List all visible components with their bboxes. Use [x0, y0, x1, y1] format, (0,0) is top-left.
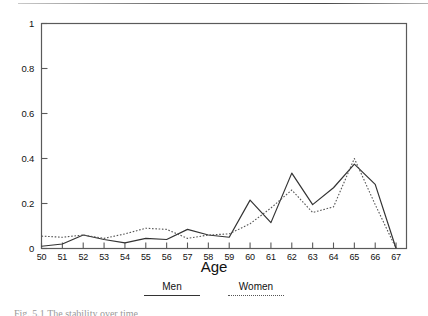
legend-label-women: Women [239, 281, 273, 292]
legend-item-men: Men [141, 281, 203, 299]
series-line-women [42, 159, 397, 249]
legend-swatch-women-dotted-line [228, 295, 284, 299]
legend-swatch-men-solid-line [144, 295, 200, 299]
y-axis-ticks [42, 24, 48, 249]
y-tick-label: 0.2 [8, 198, 34, 209]
plot-frame [42, 24, 407, 249]
y-tick-label: 0.8 [8, 63, 34, 74]
x-axis-title: Age [0, 258, 428, 275]
y-tick-label: 1 [8, 18, 34, 29]
figure-caption: Fig. 5.1 The stability over time [14, 308, 138, 316]
chart-legend: Men Women [0, 281, 428, 299]
x-axis-ticks [42, 243, 397, 249]
legend-item-women: Women [225, 281, 287, 299]
series-line-men [42, 164, 397, 248]
figure-container: 00.20.40.60.81 5051525354555657585960616… [0, 0, 428, 316]
data-series-group [42, 159, 397, 249]
y-tick-label: 0.4 [8, 153, 34, 164]
legend-label-men: Men [162, 281, 181, 292]
y-tick-label: 0.6 [8, 108, 34, 119]
